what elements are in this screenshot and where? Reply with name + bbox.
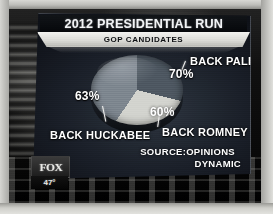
pie-label-huckabee: BACK HUCKABEE [50, 129, 150, 141]
tv-screenshot: 2012 PRESIDENTIAL RUN GOP CANDIDATES 70%… [0, 0, 273, 214]
fox-logo-text: FOX [39, 161, 62, 173]
photo-border-right [261, 0, 273, 214]
pie-value-palin: 70% [169, 67, 194, 81]
photo-border-bottom [0, 203, 273, 214]
graphic-subtitle-shadow [37, 46, 250, 53]
source-credit-line-2: DYNAMIC [195, 158, 241, 169]
pie-label-palin: BACK PALIN [190, 55, 260, 67]
network-bug: FOX 47° [31, 156, 68, 189]
temperature-value: 47° [43, 178, 55, 187]
graphic-title-bar: 2012 PRESIDENTIAL RUN [40, 15, 247, 32]
pie-label-romney: BACK ROMNEY [162, 126, 248, 138]
source-credit-line-1: SOURCE:OPINIONS [140, 146, 235, 157]
graphic-subtitle: GOP CANDIDATES [104, 35, 183, 44]
photo-border-top [0, 0, 273, 9]
pie-value-romney: 60% [150, 105, 175, 119]
fox-logo-icon: FOX [31, 156, 70, 178]
temperature-readout: 47° [31, 176, 68, 189]
graphic-title: 2012 PRESIDENTIAL RUN [64, 16, 223, 31]
pie-value-huckabee: 63% [75, 89, 100, 103]
photo-border-left [0, 0, 9, 214]
graphic-subtitle-bar: GOP CANDIDATES [37, 32, 250, 47]
tv-picture: 2012 PRESIDENTIAL RUN GOP CANDIDATES 70%… [9, 9, 261, 203]
news-graphic-panel: 2012 PRESIDENTIAL RUN GOP CANDIDATES 70%… [33, 13, 251, 179]
